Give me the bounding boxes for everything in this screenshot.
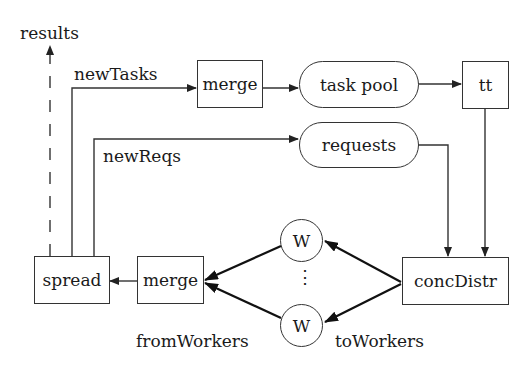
conc-distr-node: concDistr bbox=[402, 257, 509, 305]
to-workers-label: toWorkers bbox=[335, 333, 424, 350]
workers-ellipsis: ⋮ bbox=[296, 268, 314, 286]
spread-node: spread bbox=[34, 256, 110, 304]
results-label: results bbox=[20, 25, 79, 42]
merge-bottom-label: merge bbox=[143, 270, 198, 290]
merge-top-label: merge bbox=[202, 74, 257, 94]
from-workers-label: fromWorkers bbox=[136, 333, 249, 350]
worker-top-label: W bbox=[293, 231, 310, 251]
requests-to-concdistr-edge bbox=[418, 145, 448, 256]
worker-top-node: W bbox=[280, 219, 323, 262]
requests-node: requests bbox=[299, 122, 419, 168]
worker-bottom-node: W bbox=[280, 304, 323, 347]
to-workers-bottom-edge bbox=[325, 284, 401, 322]
new-tasks-edge bbox=[72, 88, 196, 256]
task-pool-node: task pool bbox=[299, 61, 419, 108]
task-pool-label: task pool bbox=[320, 75, 398, 95]
to-workers-top-edge bbox=[325, 241, 401, 282]
from-workers-top-edge bbox=[205, 246, 281, 280]
conc-distr-label: concDistr bbox=[414, 271, 497, 291]
new-tasks-label: newTasks bbox=[74, 66, 157, 83]
tt-node: tt bbox=[462, 61, 509, 109]
tt-label: tt bbox=[479, 75, 493, 95]
from-workers-bottom-edge bbox=[205, 283, 281, 318]
spread-label: spread bbox=[43, 270, 102, 290]
merge-top-node: merge bbox=[197, 60, 263, 108]
worker-bottom-label: W bbox=[293, 316, 310, 336]
edges-layer bbox=[0, 0, 532, 369]
merge-bottom-node: merge bbox=[137, 256, 204, 304]
new-reqs-label: newReqs bbox=[103, 148, 181, 165]
diagram-canvas: results newTasks newReqs fromWorkers toW… bbox=[0, 0, 532, 369]
requests-label: requests bbox=[322, 135, 396, 155]
